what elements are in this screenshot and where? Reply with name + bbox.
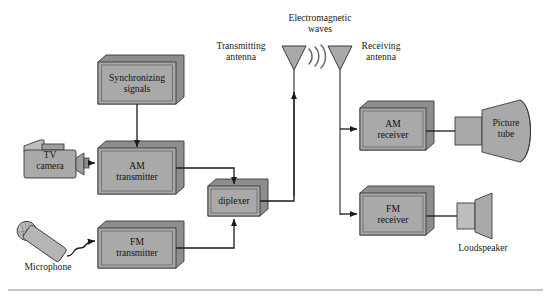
- receiving-antenna-icon: [328, 46, 352, 215]
- diagram-canvas: [0, 0, 551, 300]
- loudspeaker-icon: [457, 193, 492, 239]
- tv-system-diagram: Synchronizing signals AM transmitter FM …: [0, 0, 551, 300]
- block-label-diplexer: diplexer: [208, 195, 260, 206]
- block-label-sync-signals: Synchronizing signals: [98, 72, 176, 94]
- electromagnetic-waves-icon: [309, 45, 326, 68]
- picture-tube-icon: [455, 100, 531, 162]
- block-label-am-receiver: AM receiver: [360, 118, 426, 140]
- tv-camera-icon: [24, 140, 95, 178]
- microphone-icon: [13, 218, 95, 264]
- block-label-fm-receiver: FM receiver: [360, 203, 426, 225]
- block-label-am-transmitter: AM transmitter: [98, 160, 176, 182]
- link-fm-transmitter-to-diplexer: [176, 219, 234, 248]
- block-label-fm-transmitter: FM transmitter: [98, 236, 176, 258]
